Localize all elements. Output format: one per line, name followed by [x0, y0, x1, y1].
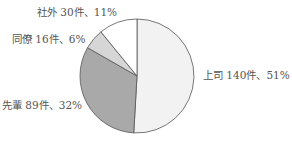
slice-label-douryou: 同僚 16件、6% [12, 33, 85, 45]
slice-label-senpai: 先輩 89件、32% [2, 99, 82, 111]
slice-label-joushi: 上司 140件、51% [203, 69, 290, 81]
slice-label-shagai: 社外 30件、11% [37, 6, 117, 18]
pie-slice-joushi [134, 19, 194, 133]
pie-slices [80, 19, 194, 133]
